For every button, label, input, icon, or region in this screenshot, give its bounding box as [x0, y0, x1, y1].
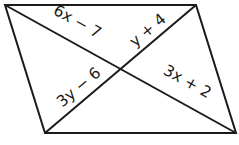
label-6x-minus-7: 6x − 7: [50, 1, 104, 42]
label-y-plus-4: y + 4: [126, 10, 170, 51]
parallelogram-diagram: 6x − 7 y + 4 3y − 6 3x + 2: [0, 0, 239, 145]
